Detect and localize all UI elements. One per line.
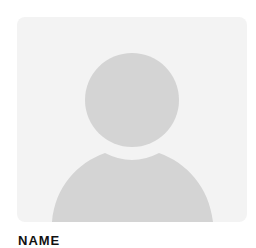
profile-photo-placeholder[interactable]: [17, 17, 247, 222]
default-user-avatar-icon: [17, 17, 247, 222]
name-label: NAME: [18, 234, 60, 248]
